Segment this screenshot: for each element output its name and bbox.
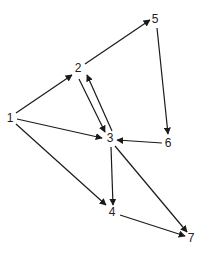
node-7: 7 [188, 231, 195, 245]
node-5: 5 [152, 12, 159, 26]
edge-3-to-7 [115, 146, 187, 232]
edge-5-to-6 [157, 28, 168, 134]
node-4: 4 [109, 205, 116, 219]
node-6: 6 [165, 136, 172, 150]
directed-graph: 1234567 [0, 0, 205, 254]
edge-6-to-3 [117, 140, 162, 143]
node-2: 2 [75, 61, 82, 75]
edge-1-to-3 [17, 119, 102, 138]
edge-1-to-2 [16, 75, 72, 113]
edges-group [16, 20, 187, 236]
node-1: 1 [7, 111, 14, 125]
node-3: 3 [107, 131, 114, 145]
nodes-group: 1234567 [7, 12, 195, 245]
edge-3-to-4 [111, 147, 113, 205]
edge-2-to-5 [85, 20, 150, 64]
